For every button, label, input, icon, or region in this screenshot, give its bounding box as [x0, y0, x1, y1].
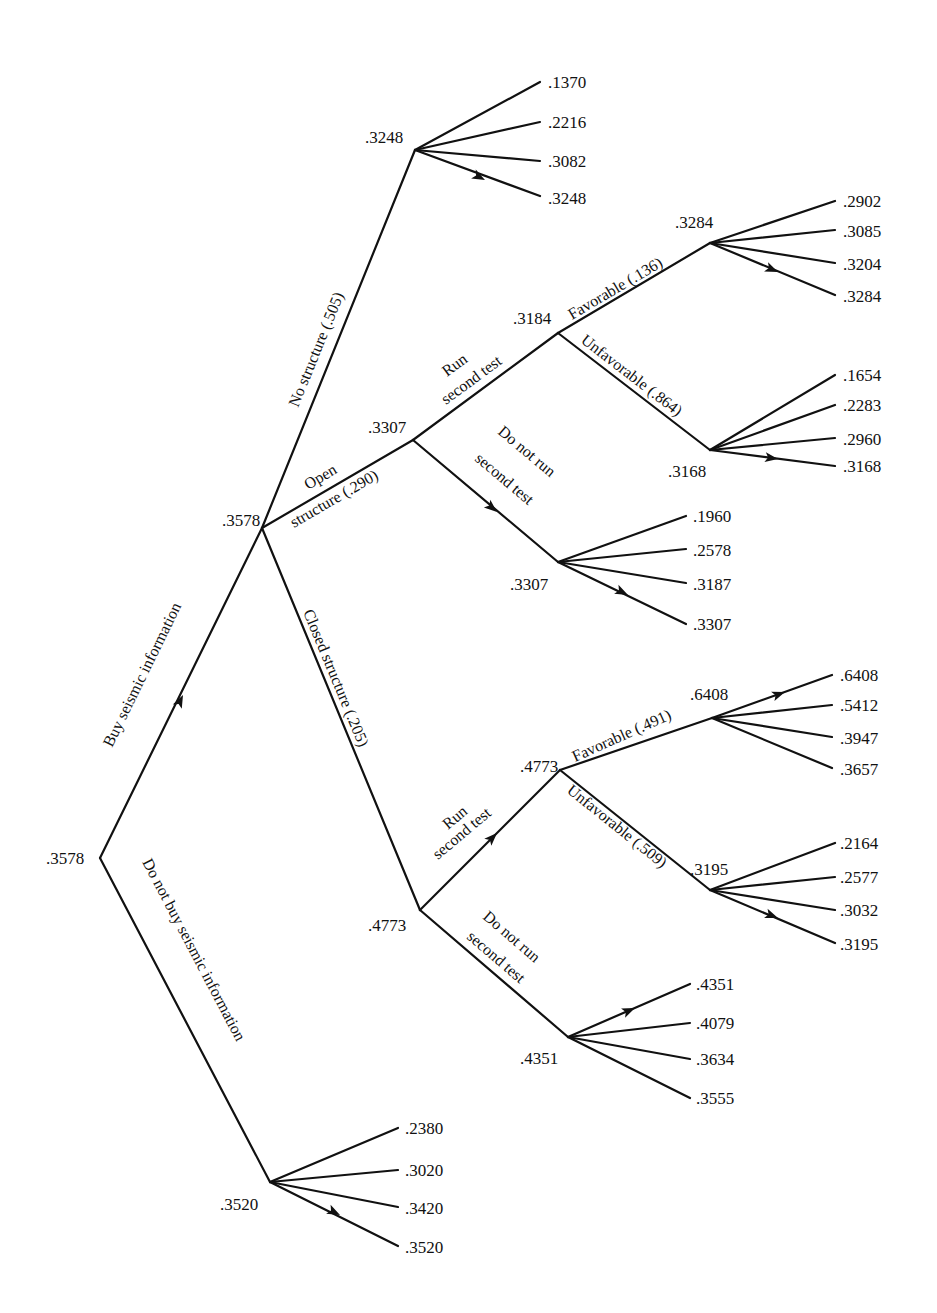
leaf-value: .1370	[548, 73, 586, 92]
arrow-icon	[614, 585, 630, 600]
leaf-value: .6408	[840, 666, 878, 685]
leaf-value: .3187	[693, 575, 732, 594]
leaf-value: .2902	[843, 192, 881, 211]
leaf-value: .1960	[693, 507, 731, 526]
leaf-value: .3284	[843, 287, 882, 306]
label-closed: Closed structure (.205)	[299, 607, 372, 750]
edge-open-favorable	[558, 243, 710, 333]
leaf-value: .2164	[840, 834, 879, 853]
closed-favorable-node-value: .6408	[690, 685, 728, 704]
no-structure-node-value: .3248	[365, 128, 403, 147]
root-value: .3578	[46, 849, 84, 868]
label-buy: Buy seismic information	[99, 600, 185, 750]
decision-tree-diagram: .3578 .3578 .3520 .3248 .3307 .3184 .328…	[0, 0, 937, 1313]
leaf-value: .2577	[840, 868, 879, 887]
label-open-favorable: Favorable (.136)	[565, 254, 666, 324]
arrow-icon	[764, 909, 780, 923]
leaf-value: .3020	[405, 1161, 443, 1180]
leaf-value: .3082	[548, 152, 586, 171]
leaf-value: .3195	[840, 935, 878, 954]
leaf-value: .3204	[843, 255, 882, 274]
edge-open-run	[413, 333, 558, 440]
leaf-values: .1370 .2216 .3082 .3248 .2902 .3085 .320…	[405, 73, 882, 1257]
leaf-value: .3555	[696, 1089, 734, 1108]
closed-dont-run-node-value: .4351	[520, 1049, 558, 1068]
label-closed-unfavorable: Unfavorable (.509)	[563, 781, 670, 872]
open-run-node-value: .3184	[513, 309, 552, 328]
leaf-value: .3634	[696, 1050, 735, 1069]
leaf-value: .3168	[843, 457, 881, 476]
closed-run-node-value: .4773	[520, 757, 558, 776]
leaf-value: .3085	[843, 222, 881, 241]
arrow-icon	[771, 687, 787, 701]
label-dont-buy: Do not buy seismic information	[138, 855, 249, 1044]
leaf-value: .1654	[843, 366, 882, 385]
leaf-value: .4079	[696, 1014, 734, 1033]
leaf-value: .3307	[693, 615, 732, 634]
dont-buy-node-value: .3520	[220, 1195, 258, 1214]
edge-open-unfavorable	[558, 333, 710, 450]
leaf-value: .2960	[843, 430, 881, 449]
tree-edges	[100, 82, 835, 1246]
leaf-value: .3520	[405, 1238, 443, 1257]
edge-open-structure	[262, 440, 413, 528]
edge-no-structure	[262, 150, 415, 528]
closed-unfavorable-node-value: .3195	[690, 860, 728, 879]
leaf-value: .3657	[840, 760, 879, 779]
buy-node-value: .3578	[222, 511, 260, 530]
closed-node-value: .4773	[368, 916, 406, 935]
leaf-value: .4351	[696, 975, 734, 994]
leaf-value: .2380	[405, 1119, 443, 1138]
arrow-icon	[764, 262, 780, 276]
leaf-value: .3032	[840, 901, 878, 920]
edge-closed-structure	[262, 528, 420, 910]
edge-dont-buy	[100, 858, 270, 1182]
leaf-value: .2283	[843, 396, 881, 415]
leaf-value: .2216	[548, 113, 586, 132]
arrow-icon	[621, 1003, 637, 1017]
open-unfavorable-node-value: .3168	[668, 462, 706, 481]
leaf-value: .3420	[405, 1199, 443, 1218]
open-favorable-node-value: .3284	[675, 213, 714, 232]
open-node-value: .3307	[368, 418, 407, 437]
leaf-value: .5412	[840, 696, 878, 715]
leaf-value: .3947	[840, 729, 879, 748]
label-open-unfavorable: Unfavorable (.864)	[578, 331, 686, 420]
leaf-value: .3248	[548, 189, 586, 208]
open-dont-run-node-value: .3307	[510, 575, 549, 594]
leaf-value: .2578	[693, 541, 731, 560]
